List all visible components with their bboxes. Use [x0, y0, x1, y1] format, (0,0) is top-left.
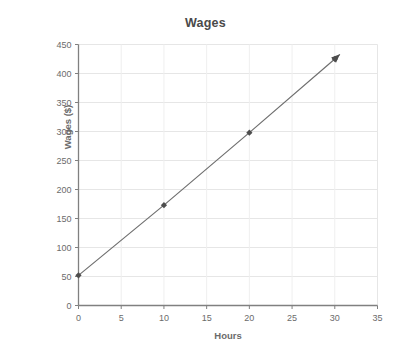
y-axis-tick-labels: 050100150200250300350400450 — [56, 40, 71, 311]
x-axis-tick-label: 25 — [287, 313, 297, 323]
y-axis-tick-label: 50 — [61, 272, 71, 282]
y-axis-tick-label: 100 — [56, 243, 71, 253]
vertical-gridlines — [121, 45, 377, 306]
x-axis-tick-label: 20 — [244, 313, 254, 323]
axis-lines — [79, 45, 378, 306]
y-axis-tick-label: 400 — [56, 69, 71, 79]
y-axis-tick-label: 450 — [56, 40, 71, 50]
horizontal-gridlines — [79, 45, 378, 277]
x-axis-tick-label: 5 — [119, 313, 124, 323]
x-axis-tick-labels: 05101520253035 — [76, 313, 383, 323]
y-axis-tick-label: 0 — [66, 301, 71, 311]
data-series-line — [79, 54, 340, 275]
y-axis-tick-label: 250 — [56, 156, 71, 166]
y-axis-tick-label: 350 — [56, 98, 71, 108]
x-axis-tick-label: 15 — [202, 313, 212, 323]
chart-container: Wages Wages ($) Hours 050100150200250300… — [0, 0, 411, 353]
series-polyline — [79, 54, 340, 275]
y-axis-tick-label: 300 — [56, 127, 71, 137]
x-axis-tick-label: 35 — [372, 313, 382, 323]
y-axis-tick-label: 150 — [56, 214, 71, 224]
y-axis-tick-label: 200 — [56, 185, 71, 195]
plot-area: 050100150200250300350400450 051015202530… — [0, 0, 411, 353]
x-axis-tick-label: 10 — [159, 313, 169, 323]
x-axis-tick-label: 30 — [330, 313, 340, 323]
x-axis-tick-label: 0 — [76, 313, 81, 323]
